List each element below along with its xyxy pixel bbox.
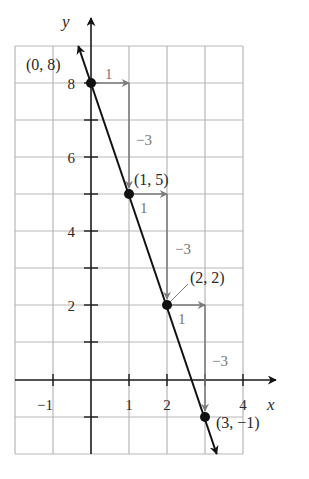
rise-label: −3 (212, 353, 228, 369)
y-tick-label: 8 (68, 76, 76, 92)
y-axis-label: y (60, 12, 70, 31)
point-1-5 (124, 189, 134, 199)
graph-canvas: y x −1 1 2 4 8 6 4 2 1 −3 1 −3 1 −3 (0, … (0, 0, 309, 479)
run-label: 1 (140, 200, 148, 216)
point-label: (0, 8) (26, 56, 61, 74)
point-label: (1, 5) (134, 171, 169, 189)
line-y-eq-neg3x-plus-8 (78, 46, 216, 454)
point-label: (3, −1) (216, 414, 260, 432)
rise-label: −3 (136, 132, 152, 148)
point-label: (2, 2) (190, 269, 225, 287)
leader-line (170, 284, 188, 302)
x-tick-label: −1 (37, 397, 53, 413)
y-tick-label: 2 (68, 298, 76, 314)
point-2-2 (162, 300, 172, 310)
run-label: 1 (105, 66, 113, 82)
x-tick-label: 4 (239, 397, 247, 413)
y-tick-label: 6 (68, 150, 76, 166)
point-3-neg1 (200, 412, 210, 422)
rise-label: −3 (175, 241, 191, 257)
run-label: 1 (178, 311, 186, 327)
x-axis-label: x (266, 395, 275, 414)
x-tick-label: 1 (125, 397, 133, 413)
y-tick-label: 4 (68, 224, 76, 240)
point-0-8 (86, 78, 96, 88)
x-tick-label: 2 (163, 397, 171, 413)
